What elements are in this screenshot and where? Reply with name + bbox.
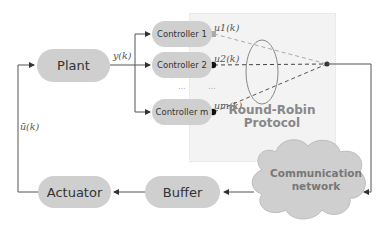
diagram-canvas: Plant Controller 1 Controller 2 Controll… — [0, 0, 387, 238]
buffer-label: Buffer — [163, 185, 202, 200]
actuator-label: Actuator — [47, 185, 103, 200]
signal-u1-label: u1(k) — [214, 22, 239, 33]
controller-m-label: Controller m — [156, 107, 209, 117]
network-line-1: Communication — [254, 167, 378, 180]
controller-2-label: Controller 2 — [157, 60, 207, 70]
signal-y-label: y(k) — [113, 50, 132, 61]
output-ellipsis: ... — [208, 82, 216, 91]
communication-network-label: Communication network — [254, 167, 378, 193]
plant-block: Plant — [37, 49, 110, 82]
controller-2-block: Controller 2 — [152, 52, 212, 78]
plant-label: Plant — [57, 58, 90, 73]
buffer-block: Buffer — [145, 176, 220, 208]
controller-1-label: Controller 1 — [157, 29, 207, 39]
round-robin-protocol-label: Round-Robin Protocol — [222, 104, 322, 130]
controller-m-block: Controller m — [152, 99, 212, 125]
network-line-2: network — [254, 180, 378, 193]
controller-1-block: Controller 1 — [152, 21, 212, 47]
protocol-line-2: Protocol — [222, 117, 322, 130]
signal-ubar-label: ū(k) — [20, 121, 39, 132]
signal-u2-label: u2(k) — [214, 53, 239, 64]
controller-ellipsis: ... — [178, 82, 186, 91]
actuator-block: Actuator — [38, 176, 111, 208]
